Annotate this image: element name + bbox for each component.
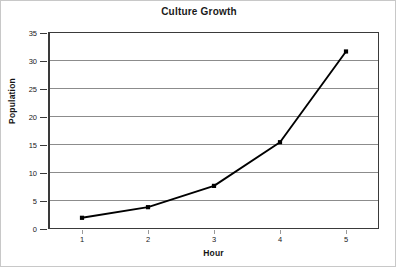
x-tick-label: 5	[344, 235, 348, 244]
x-tick-mark	[280, 230, 281, 234]
x-tick-label: 2	[146, 235, 150, 244]
x-tick-mark	[346, 230, 347, 234]
x-tick-mark	[214, 230, 215, 234]
x-tick-label: 1	[80, 235, 84, 244]
x-tick-label: 4	[278, 235, 282, 244]
x-tick-mark	[148, 230, 149, 234]
chart-figure: Culture Growth Population Hour 051015202…	[0, 0, 396, 267]
x-axis: 12345	[1, 1, 396, 267]
x-tick-label: 3	[212, 235, 216, 244]
x-tick-mark	[82, 230, 83, 234]
